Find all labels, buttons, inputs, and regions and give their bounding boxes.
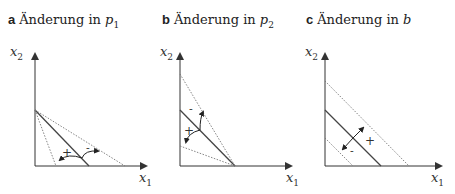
panel-b-budget-line-steep [180,74,235,166]
panel-c-shift-arrow-out [353,128,363,138]
panel-c-minus-sign: - [350,145,354,158]
panel-b-arrow-minus [200,112,203,130]
panel-a-minus-sign: - [86,142,90,155]
panel-b-diagram: - + [180,54,291,166]
panel-c-plus-sign: + [365,134,375,148]
panel-b-budget-line-flat [180,146,235,166]
panel-b-minus-sign: - [189,103,193,116]
panel-a-arrow-minus [82,151,98,158]
panel-b-plus-sign: + [184,124,194,138]
panel-c-diagram: + - [325,54,441,166]
panel-a-plus-sign: + [62,146,72,160]
panel-b-budget-line [180,110,235,166]
diagram-canvas: + - - + + - [0,0,455,194]
panel-a-budget-line-steep [35,110,56,166]
panel-a-diagram: + - [35,54,146,166]
